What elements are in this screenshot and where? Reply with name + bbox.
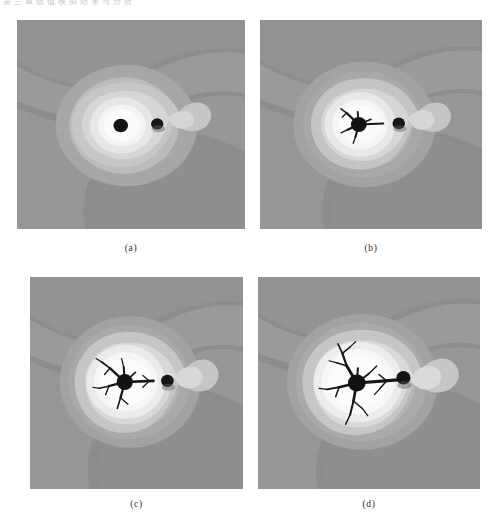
page-header-fragment: 第 三 章 数 值 模 拟 结 果 与 分 析 bbox=[3, 0, 153, 6]
panel-caption-d: (d) bbox=[258, 498, 480, 510]
contour-plot-a bbox=[17, 20, 245, 229]
panel-caption-b: (b) bbox=[260, 242, 482, 254]
panel-caption-c: (c) bbox=[30, 498, 243, 510]
contour-plot-c bbox=[30, 277, 243, 489]
contour-plot-b bbox=[260, 20, 482, 229]
contour-panel-d bbox=[258, 277, 480, 489]
contour-plot-d bbox=[258, 277, 480, 489]
contour-panel-b bbox=[260, 20, 482, 229]
contour-panel-a bbox=[17, 20, 245, 229]
contour-panel-c bbox=[30, 277, 243, 489]
figure-root: 第 三 章 数 值 模 拟 结 果 与 分 析 bbox=[0, 0, 496, 519]
panel-caption-a: (a) bbox=[17, 242, 245, 254]
